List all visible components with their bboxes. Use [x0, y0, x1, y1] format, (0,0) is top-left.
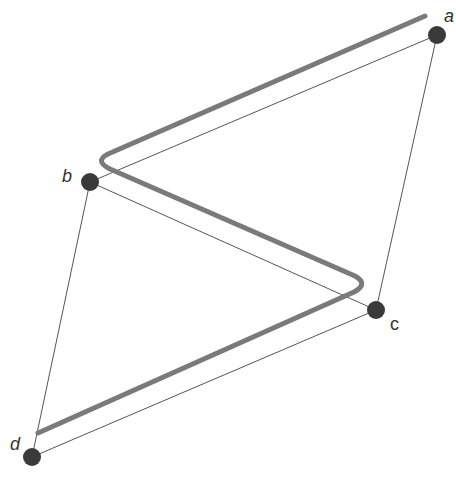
- zigzag-path: [38, 16, 425, 433]
- label-a: a: [444, 6, 454, 26]
- edge-a-b: [90, 35, 437, 182]
- edge-a-c: [376, 35, 437, 310]
- edge-c-d: [32, 310, 376, 457]
- node-b: [81, 173, 99, 191]
- nodes: [23, 26, 446, 466]
- edge-b-c: [90, 182, 376, 310]
- diagram-canvas: a b c d: [0, 0, 456, 488]
- label-b: b: [62, 166, 72, 186]
- label-d: d: [10, 434, 21, 454]
- label-c: c: [390, 314, 399, 334]
- node-c: [367, 301, 385, 319]
- node-d: [23, 448, 41, 466]
- node-a: [428, 26, 446, 44]
- labels: a b c d: [10, 6, 454, 454]
